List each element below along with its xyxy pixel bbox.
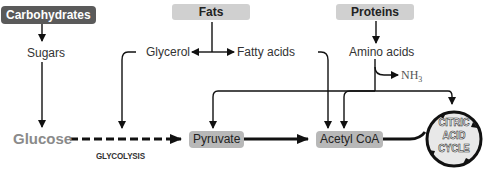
carbohydrates-box: Carbohydrates [1,6,96,24]
nh3-label: NH3 [401,68,422,84]
citric-acid-cycle-label: CITRIC ACID CYCLE [435,116,472,155]
glycolysis-label: GLYCOLYSIS [96,150,145,161]
proteins-box: Proteins [336,4,414,20]
cycle-line-3: CYCLE [435,142,472,155]
nh3-text: NH [401,68,418,82]
glycerol-label: Glycerol [146,45,190,59]
cycle-line-1: CITRIC [435,116,472,129]
glucose-label: Glucose [13,130,72,147]
nh3-subscript: 3 [418,75,422,84]
sugars-label: Sugars [27,46,65,60]
pyruvate-box: Pyruvate [189,131,244,148]
amino-acids-label: Amino acids [349,45,414,59]
fatty-acids-label: Fatty acids [237,45,295,59]
acetyl-coa-box: Acetyl CoA [316,131,383,148]
cycle-line-2: ACID [435,129,472,142]
fats-box: Fats [172,4,250,20]
